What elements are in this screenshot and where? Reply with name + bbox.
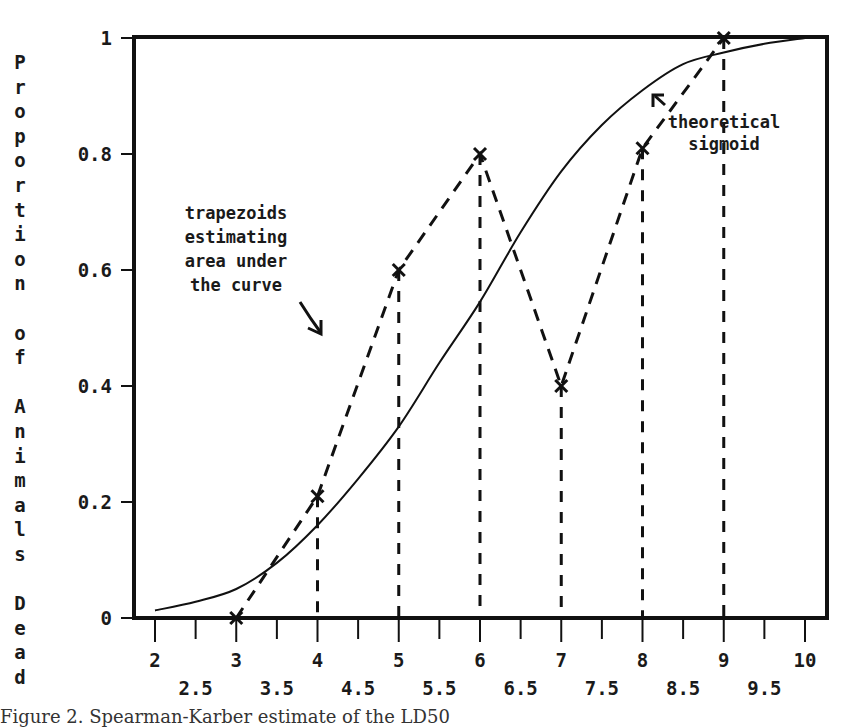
annotation-trapezoids-text: the curve: [190, 275, 282, 295]
figure-caption: Figure 2. Spearman-Karber estimate of th…: [0, 706, 450, 727]
observed-series: [230, 32, 730, 624]
annotation-sigmoid-text: theoretical: [668, 112, 781, 132]
y-tick-label: 0.2: [78, 491, 112, 513]
arrow-up-left-icon: [655, 96, 665, 105]
x-tick-label-minor: 7.5: [585, 677, 619, 699]
x-tick-label-minor: 8.5: [666, 677, 700, 699]
x-tick-label: 3: [231, 649, 242, 671]
annotation-trapezoids-text: estimating: [185, 227, 287, 247]
x-tick-label-minor: 2.5: [178, 677, 212, 699]
x-tick-label: 7: [556, 649, 567, 671]
x-tick-label-minor: 4.5: [341, 677, 375, 699]
x-axis: 23456789102.53.54.55.56.57.58.59.5: [149, 618, 816, 699]
y-tick-label: 0.8: [78, 143, 112, 165]
x-tick-label: 8: [637, 649, 648, 671]
x-tick-label: 4: [312, 649, 323, 671]
annotation-sigmoid-text: sigmoid: [688, 134, 760, 154]
x-tick-label: 2: [149, 649, 160, 671]
y-tick-label: 0.4: [78, 375, 112, 397]
x-tick-label: 10: [794, 649, 817, 671]
x-tick-label: 5: [393, 649, 404, 671]
y-axis: 00.20.40.60.81: [78, 27, 134, 629]
x-tick-label: 6: [474, 649, 485, 671]
x-tick-label-minor: 5.5: [422, 677, 456, 699]
x-tick-label-minor: 6.5: [503, 677, 537, 699]
y-tick-label: 0.6: [78, 259, 112, 281]
x-tick-label-minor: 3.5: [260, 677, 294, 699]
x-tick-label-minor: 9.5: [747, 677, 781, 699]
annotation-trapezoids-text: trapezoids: [185, 203, 287, 223]
y-tick-label: 1: [101, 27, 112, 49]
x-tick-label: 9: [718, 649, 729, 671]
annotation-trapezoids-text: area under: [185, 251, 287, 271]
y-tick-label: 0: [101, 607, 112, 629]
